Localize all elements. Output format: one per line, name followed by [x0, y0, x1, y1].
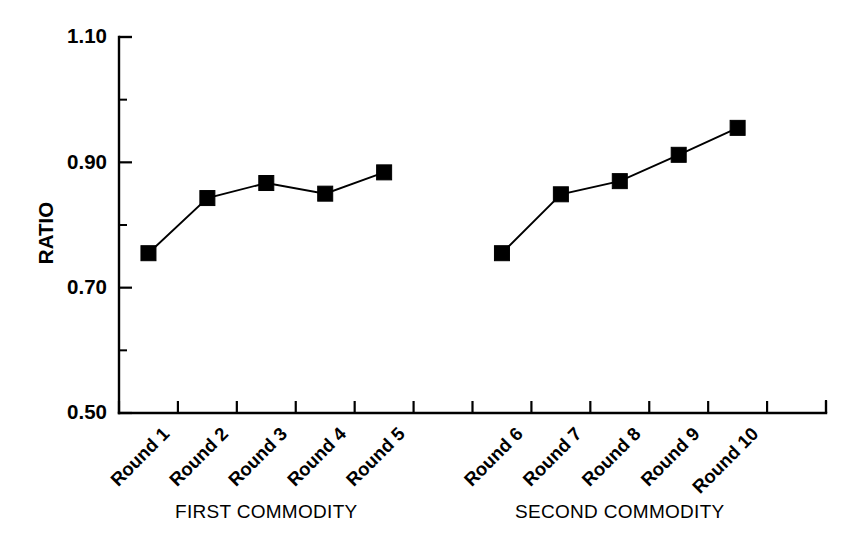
x-label-round-1: Round 1	[106, 423, 173, 490]
y-tick-label-1.10: 1.10	[67, 24, 107, 47]
x-axis-ticks	[119, 401, 826, 413]
y-axis-ticks	[119, 37, 132, 413]
x-label-round-3: Round 3	[224, 423, 291, 490]
x-label-round-4: Round 4	[283, 422, 351, 490]
data-point-round-8	[612, 174, 627, 189]
data-point-round-7	[553, 187, 568, 202]
data-point-round-3	[259, 176, 274, 191]
x-label-round-7: Round 7	[519, 423, 586, 490]
commodity-group-labels: FIRST COMMODITYSECOND COMMODITY	[175, 501, 725, 522]
x-label-round-6: Round 6	[460, 423, 527, 490]
ratio-line-chart: 0.500.700.901.10 RATIO Round 1Round 2Rou…	[0, 0, 853, 557]
data-point-round-5	[377, 165, 392, 180]
y-tick-label-0.50: 0.50	[67, 400, 107, 423]
data-point-round-6	[494, 246, 509, 261]
data-series-layer	[141, 120, 745, 260]
group-label-1: FIRST COMMODITY	[175, 501, 358, 522]
group-label-2: SECOND COMMODITY	[515, 501, 725, 522]
data-point-round-9	[671, 147, 686, 162]
data-point-round-1	[141, 246, 156, 261]
x-label-round-5: Round 5	[342, 423, 409, 490]
series-line-2	[502, 128, 738, 253]
data-point-round-10	[730, 120, 745, 135]
data-point-round-2	[200, 191, 215, 206]
y-axis-title: RATIO	[34, 202, 57, 264]
y-tick-label-0.70: 0.70	[67, 275, 107, 298]
y-tick-label-0.90: 0.90	[67, 150, 107, 173]
x-axis-category-labels: Round 1Round 2Round 3Round 4Round 5Round…	[106, 422, 762, 497]
data-point-round-4	[318, 186, 333, 201]
chart-page: 0.500.700.901.10 RATIO Round 1Round 2Rou…	[0, 0, 853, 557]
chart-axes	[119, 37, 826, 413]
x-label-round-2: Round 2	[165, 423, 232, 490]
y-axis-tick-labels: 0.500.700.901.10	[67, 24, 107, 423]
x-label-round-8: Round 8	[577, 423, 644, 490]
